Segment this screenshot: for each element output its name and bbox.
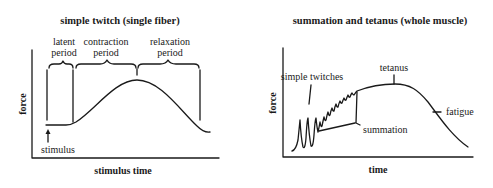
summation-label: summation [363, 124, 407, 135]
right-x-axis-label: time [369, 164, 388, 175]
tetanus-label: tetanus [380, 62, 408, 73]
latent-period-brace [49, 61, 73, 68]
left-panel-title: simple twitch (single fiber) [60, 15, 180, 27]
latent-period-label-1: latent [53, 36, 75, 47]
contraction-period-brace [76, 60, 136, 68]
right-axes [283, 48, 473, 157]
relaxation-period-brace [138, 60, 199, 68]
right-panel-title: summation and tetanus (whole muscle) [293, 15, 468, 27]
stimulus-arrow-icon [46, 129, 51, 134]
relaxation-period-label-2: period [157, 47, 183, 58]
tetanus-force-curve [292, 84, 468, 151]
right-y-axis-label: force [267, 92, 278, 114]
summation-tetanus-panel: summation and tetanus (whole muscle) sim… [267, 15, 474, 175]
relaxation-period-label-1: relaxation [150, 36, 190, 47]
latent-period-label-2: period [51, 47, 77, 58]
contraction-period-label-1: contraction [84, 36, 129, 47]
muscle-twitch-diagram: simple twitch (single fiber) latent peri… [0, 0, 493, 188]
contraction-period-label-2: period [93, 47, 119, 58]
stimulus-label: stimulus [41, 144, 75, 155]
fatigue-label: fatigue [446, 106, 474, 117]
simple-twitches-label: simple twitches [281, 71, 344, 82]
twitch-force-curve [46, 80, 210, 132]
simple-twitches-pointer [309, 85, 311, 104]
simple-twitch-panel: simple twitch (single fiber) latent peri… [17, 15, 219, 176]
left-y-axis-label: force [17, 93, 28, 115]
left-axes [32, 50, 219, 158]
summation-bracket [319, 92, 360, 131]
left-x-axis-label: stimulus time [94, 165, 152, 176]
